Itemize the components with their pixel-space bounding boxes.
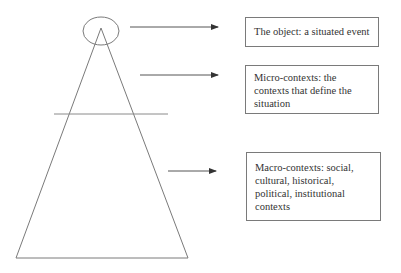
macro-contexts-text-line: political, institutional: [255, 187, 372, 200]
macro-contexts-box: Macro-contexts: social, cultural, histor…: [246, 152, 381, 221]
micro-contexts-box: Micro-contexts: the contexts that define…: [245, 65, 379, 114]
context-cone-diagram: The object: a situated event Micro-conte…: [0, 0, 401, 273]
micro-contexts-text-line: Micro-contexts: the: [254, 71, 370, 84]
micro-contexts-text-line: contexts that define the: [254, 84, 370, 97]
macro-contexts-text-line: contexts: [255, 200, 372, 213]
macro-contexts-text-line: Macro-contexts: social,: [255, 161, 372, 174]
macro-contexts-text-line: cultural, historical,: [255, 174, 372, 187]
cone-triangle: [16, 28, 188, 258]
object-ellipse: [83, 17, 119, 45]
micro-contexts-text-line: situation: [254, 97, 370, 110]
object-label-box: The object: a situated event: [245, 17, 379, 47]
object-label-text: The object: a situated event: [254, 25, 370, 38]
